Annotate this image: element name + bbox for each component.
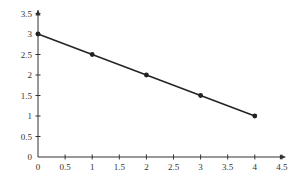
y-tick-label: 1 [28,111,33,121]
data-point-marker [198,93,203,98]
data-series [36,32,258,119]
x-tick-label: 1.5 [114,162,126,172]
y-tick-label: 1.5 [21,91,33,101]
axes [36,10,286,160]
x-tick-label: 0.5 [59,162,71,172]
y-tick-label: 0.5 [21,132,33,142]
y-tick-label: 3 [28,29,33,39]
x-tick-label: 1 [90,162,95,172]
x-tick-label: 2.5 [168,162,180,172]
data-point-marker [90,52,95,57]
x-tick-label: 4 [253,162,258,172]
x-tick-label: 0 [36,162,41,172]
y-tick-label: 2.5 [21,50,33,60]
data-point-marker [144,73,149,78]
x-tick-label: 2 [144,162,149,172]
y-tick-label: 3.5 [21,9,33,19]
x-axis-arrow-icon [280,155,286,160]
x-tick-label: 3.5 [222,162,234,172]
y-tick-label: 0 [28,152,33,162]
y-tick-label: 2 [28,70,33,80]
data-point-marker [36,32,41,37]
y-axis-arrow-icon [36,10,41,16]
x-tick-label: 3 [198,162,203,172]
data-point-marker [252,114,257,119]
line-chart: 00.511.522.533.544.5 00.511.522.533.5 [0,0,299,186]
x-tick-label: 4.5 [276,162,288,172]
